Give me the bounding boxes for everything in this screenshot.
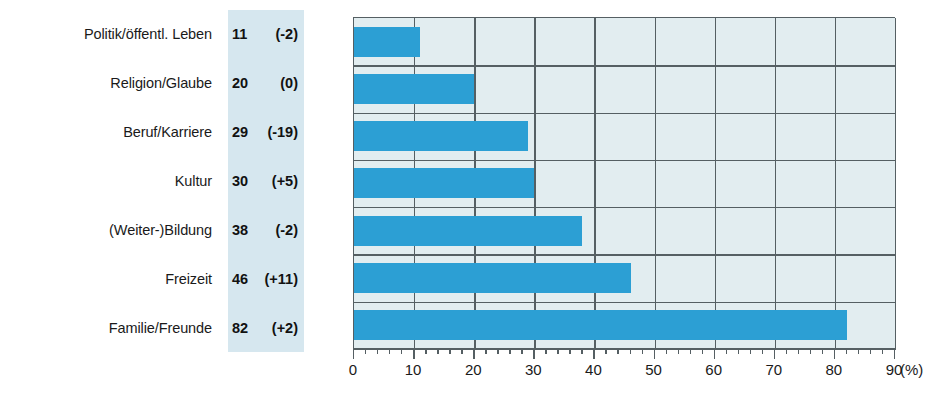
x-axis-tick-minor	[461, 348, 462, 354]
gridline-vertical	[835, 18, 836, 349]
value-number: 38	[232, 222, 248, 238]
x-axis-unit-label: (%)	[900, 361, 923, 378]
value-row: 20(0)	[228, 59, 304, 108]
category-label-row: Kultur	[0, 157, 212, 206]
x-axis-tick-minor	[425, 348, 426, 354]
value-delta: (0)	[280, 75, 298, 91]
x-axis-line	[353, 348, 896, 350]
x-axis-tick-minor	[726, 348, 727, 354]
x-axis-tick-label: 80	[826, 361, 843, 378]
category-label: (Weiter-)Bildung	[109, 222, 212, 238]
value-delta: (+11)	[265, 271, 298, 287]
gridline-vertical	[715, 18, 716, 349]
x-axis-tick-minor	[557, 348, 558, 354]
category-label-row: Familie/Freunde	[0, 303, 212, 352]
value-number: 46	[232, 271, 248, 287]
category-label: Beruf/Karriere	[123, 124, 212, 140]
x-axis-tick-minor	[810, 348, 811, 354]
category-label-row: Politik/öffentl. Leben	[0, 10, 212, 59]
x-axis-tick-major	[473, 348, 474, 359]
bar	[354, 216, 582, 246]
x-axis-tick-major	[894, 348, 895, 359]
x-axis-tick-major	[413, 348, 414, 359]
x-axis-tick-major	[714, 348, 715, 359]
x-axis-tick-minor	[630, 348, 631, 354]
bar-row	[354, 18, 420, 65]
value-row: 11(-2)	[228, 10, 304, 59]
bar-row	[354, 207, 582, 254]
x-axis-tick-minor	[437, 348, 438, 354]
category-label: Familie/Freunde	[109, 320, 212, 336]
category-label: Kultur	[175, 173, 212, 189]
x-axis-tick-label: 90	[886, 361, 903, 378]
bar	[354, 310, 847, 340]
bar	[354, 263, 631, 293]
x-axis-tick-minor	[870, 348, 871, 354]
value-row: 29(-19)	[228, 108, 304, 157]
x-axis-tick-major	[593, 348, 594, 359]
category-label-row: Freizeit	[0, 254, 212, 303]
x-axis-tick-minor	[497, 348, 498, 354]
value-number: 20	[232, 75, 248, 91]
x-axis-tick-minor	[617, 348, 618, 354]
x-axis-tick-minor	[401, 348, 402, 354]
category-label-row: Religion/Glaube	[0, 59, 212, 108]
category-label: Religion/Glaube	[110, 75, 212, 91]
x-axis-tick-label: 40	[585, 361, 602, 378]
value-number: 30	[232, 173, 248, 189]
x-axis-tick-minor	[545, 348, 546, 354]
x-axis-tick-label: 70	[765, 361, 782, 378]
bar	[354, 27, 420, 57]
x-axis-tick-label: 60	[705, 361, 722, 378]
x-axis-tick-minor	[846, 348, 847, 354]
x-axis-tick-minor	[738, 348, 739, 354]
x-axis-tick-minor	[882, 348, 883, 354]
bar-row	[354, 302, 847, 349]
value-row: 82(+2)	[228, 303, 304, 352]
bar	[354, 74, 474, 104]
value-delta: (+2)	[272, 320, 298, 336]
x-axis-tick-minor	[762, 348, 763, 354]
x-axis-tick-label: 20	[465, 361, 482, 378]
x-axis-tick-label: 30	[525, 361, 542, 378]
category-label: Politik/öffentl. Leben	[84, 26, 212, 42]
value-delta: (-2)	[275, 222, 298, 238]
value-delta: (-19)	[267, 124, 298, 140]
value-row: 30(+5)	[228, 157, 304, 206]
x-axis-tick-minor	[509, 348, 510, 354]
x-axis-tick-minor	[365, 348, 366, 354]
x-axis-tick-minor	[666, 348, 667, 354]
category-label-row: (Weiter-)Bildung	[0, 205, 212, 254]
bar	[354, 121, 528, 151]
x-axis-tick-minor	[822, 348, 823, 354]
category-label-column: Politik/öffentl. LebenReligion/GlaubeBer…	[0, 10, 212, 352]
bar-chart-figure: Politik/öffentl. LebenReligion/GlaubeBer…	[0, 0, 941, 399]
value-number: 82	[232, 320, 248, 336]
bar	[354, 168, 534, 198]
bar-row	[354, 160, 534, 207]
value-number: 11	[232, 26, 247, 42]
value-row: 38(-2)	[228, 205, 304, 254]
x-axis-tick-minor	[702, 348, 703, 354]
x-axis-tick-minor	[786, 348, 787, 354]
x-axis-tick-minor	[581, 348, 582, 354]
x-axis-tick-major	[353, 348, 354, 359]
x-axis-tick-minor	[377, 348, 378, 354]
gridline-vertical	[775, 18, 776, 349]
bar-row	[354, 113, 528, 160]
x-axis-tick-minor	[569, 348, 570, 354]
x-axis-tick-minor	[678, 348, 679, 354]
bar-row	[354, 254, 631, 301]
x-axis-tick-major	[774, 348, 775, 359]
bar-row	[354, 65, 474, 112]
plot-area	[353, 17, 895, 349]
x-axis-tick-minor	[750, 348, 751, 354]
category-label-row: Beruf/Karriere	[0, 108, 212, 157]
x-axis-tick-minor	[485, 348, 486, 354]
x-axis-tick-label: 50	[645, 361, 662, 378]
x-axis-tick-minor	[642, 348, 643, 354]
value-highlight-band: 11(-2)20(0)29(-19)30(+5)38(-2)46(+11)82(…	[228, 10, 304, 352]
value-delta: (+5)	[272, 173, 298, 189]
value-row: 46(+11)	[228, 254, 304, 303]
x-axis-tick-minor	[449, 348, 450, 354]
